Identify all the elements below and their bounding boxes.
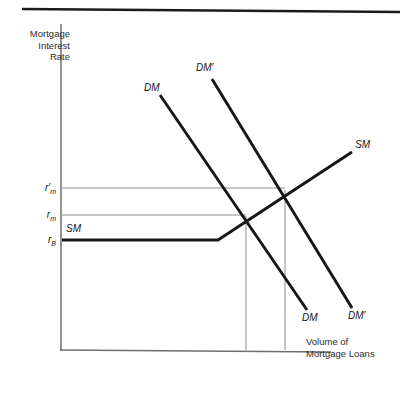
tick-subscript-rb: B (51, 240, 56, 247)
curve-label-dm-prime-top: DM′ (196, 62, 213, 73)
curve-label-sm-left: SM (66, 223, 81, 234)
curve-label-sm-right: SM (355, 139, 370, 150)
curve-label-dm-top: DM (144, 82, 160, 93)
y-axis-label: Mortgage Interest Rate (6, 28, 70, 63)
tick-subscript-rm-prime: m (50, 188, 56, 195)
tick-subscript-rm: m (50, 215, 56, 222)
tick-label-rm: rm (24, 209, 56, 222)
curve-label-dm-bottom: DM (302, 312, 318, 323)
curve-label-dm-prime-bottom: DM′ (348, 310, 365, 321)
x-axis-label: Volume of Mortgage Loans (306, 336, 402, 359)
tick-label-rb: rB (24, 234, 56, 247)
tick-label-rm-prime: r′m (24, 182, 56, 195)
